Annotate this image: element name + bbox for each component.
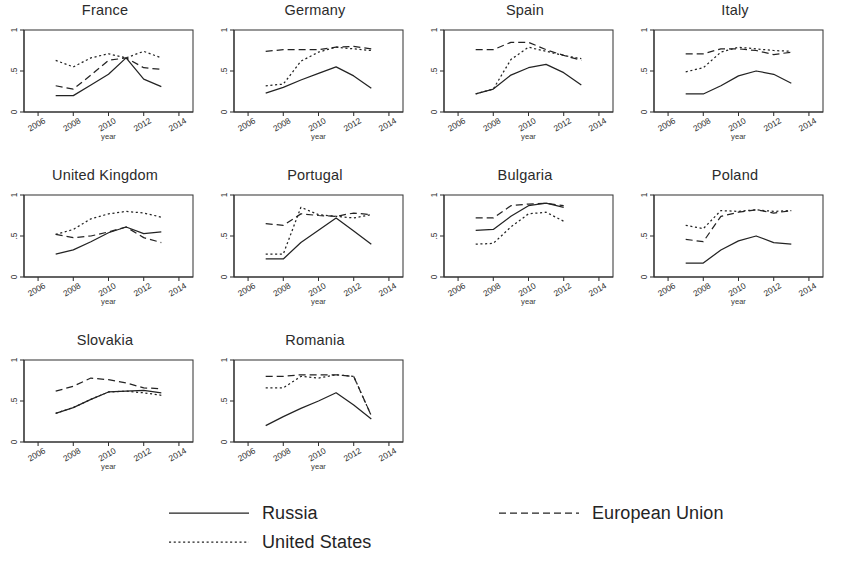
x-tick-label: 2006 <box>446 280 467 298</box>
x-tick-label: 2014 <box>377 280 398 298</box>
series-line-russia <box>266 218 372 259</box>
plot-frame <box>654 195 823 277</box>
x-tick-label: 2012 <box>552 115 573 133</box>
x-tick-label: 2014 <box>587 115 608 133</box>
x-tick-label: 2010 <box>96 280 117 298</box>
y-tick-label: 0 <box>639 274 649 279</box>
x-tick-label: 2006 <box>26 445 47 463</box>
x-tick-label: 2010 <box>306 445 327 463</box>
series-line-russia <box>56 227 162 254</box>
y-tick-label: .5 <box>9 397 19 404</box>
x-tick-label: 2014 <box>167 445 188 463</box>
y-tick-label: 1 <box>219 192 229 197</box>
plot-area: 20062008201020122014year0.51 <box>210 0 420 160</box>
legend-entry-russia[interactable]: Russia <box>168 500 318 526</box>
series-line-united-states <box>56 51 162 67</box>
x-tick-label: 2008 <box>691 280 712 298</box>
x-tick-label: 2006 <box>26 115 47 133</box>
x-axis-title: year <box>101 462 116 471</box>
legend-entry-european-union[interactable]: European Union <box>498 500 724 526</box>
panel-spain: Spain20062008201020122014year0.51 <box>420 0 630 160</box>
x-tick-label: 2012 <box>132 280 153 298</box>
y-tick-label: .5 <box>429 232 439 239</box>
plot-frame <box>24 195 193 277</box>
y-tick-label: 1 <box>9 357 19 362</box>
y-tick-label: 1 <box>639 192 649 197</box>
legend-label: European Union <box>592 503 724 524</box>
series-line-russia <box>56 390 162 413</box>
panel-united-kingdom: United Kingdom20062008201020122014year0.… <box>0 165 210 325</box>
legend-key-dotted-line-icon <box>168 535 250 549</box>
legend-entry-united-states[interactable]: United States <box>168 529 371 555</box>
x-tick-label: 2012 <box>342 445 363 463</box>
x-tick-label: 2012 <box>762 115 783 133</box>
series-line-russia <box>266 67 372 93</box>
x-tick-label: 2010 <box>726 280 747 298</box>
y-tick-label: 1 <box>9 192 19 197</box>
x-tick-label: 2008 <box>61 115 82 133</box>
series-line-european-union <box>266 375 372 416</box>
series-line-european-union <box>686 49 792 55</box>
y-tick-label: 0 <box>9 109 19 114</box>
y-tick-label: 1 <box>219 27 229 32</box>
series-line-european-union <box>56 227 162 243</box>
plot-area: 20062008201020122014year0.51 <box>0 0 210 160</box>
x-tick-label: 2014 <box>797 280 818 298</box>
y-tick-label: .5 <box>219 67 229 74</box>
x-tick-label: 2010 <box>516 280 537 298</box>
x-tick-label: 2006 <box>26 280 47 298</box>
x-tick-label: 2006 <box>446 115 467 133</box>
panel-romania: Romania20062008201020122014year0.51 <box>210 330 420 490</box>
panel-bulgaria: Bulgaria20062008201020122014year0.51 <box>420 165 630 325</box>
y-tick-label: 1 <box>639 27 649 32</box>
x-tick-label: 2010 <box>726 115 747 133</box>
y-tick-label: .5 <box>9 67 19 74</box>
panel-portugal: Portugal20062008201020122014year0.51 <box>210 165 420 325</box>
series-line-united-states <box>56 391 162 413</box>
y-tick-label: .5 <box>429 67 439 74</box>
plot-frame <box>234 30 403 112</box>
plot-area: 20062008201020122014year0.51 <box>420 0 630 160</box>
series-line-european-union <box>476 42 582 60</box>
x-axis-title: year <box>731 132 746 141</box>
x-tick-label: 2010 <box>96 445 117 463</box>
series-line-russia <box>266 393 372 426</box>
x-tick-label: 2014 <box>167 280 188 298</box>
y-tick-label: .5 <box>219 232 229 239</box>
legend-label: Russia <box>262 503 318 524</box>
x-tick-label: 2008 <box>271 115 292 133</box>
series-line-united-states <box>266 47 372 86</box>
x-tick-label: 2006 <box>656 280 677 298</box>
y-tick-label: 0 <box>219 109 229 114</box>
x-axis-title: year <box>311 132 326 141</box>
series-line-european-union <box>686 210 792 242</box>
plot-area: 20062008201020122014year0.51 <box>210 165 420 325</box>
figure-legend: RussiaEuropean UnionUnited States <box>0 496 843 566</box>
y-tick-label: .5 <box>639 232 649 239</box>
x-tick-label: 2012 <box>342 115 363 133</box>
x-tick-label: 2014 <box>377 115 398 133</box>
x-tick-label: 2008 <box>481 280 502 298</box>
plot-area: 20062008201020122014year0.51 <box>210 330 420 490</box>
x-tick-label: 2006 <box>236 445 257 463</box>
plot-frame <box>444 30 613 112</box>
y-tick-label: .5 <box>9 232 19 239</box>
series-line-russia <box>476 64 582 94</box>
y-tick-label: 1 <box>219 357 229 362</box>
panel-germany: Germany20062008201020122014year0.51 <box>210 0 420 160</box>
x-tick-label: 2006 <box>236 280 257 298</box>
plot-frame <box>654 30 823 112</box>
series-line-russia <box>56 58 162 96</box>
legend-key-solid-line-icon <box>168 506 250 520</box>
legend-label: United States <box>262 532 371 553</box>
series-line-russia <box>686 71 792 94</box>
y-tick-label: 1 <box>429 192 439 197</box>
x-tick-label: 2010 <box>306 115 327 133</box>
x-tick-label: 2006 <box>656 115 677 133</box>
x-tick-label: 2012 <box>762 280 783 298</box>
x-tick-label: 2008 <box>61 280 82 298</box>
legend-key-dashed-line-icon <box>498 506 580 520</box>
x-tick-label: 2012 <box>132 115 153 133</box>
series-line-united-states <box>686 47 792 72</box>
x-tick-label: 2012 <box>552 280 573 298</box>
